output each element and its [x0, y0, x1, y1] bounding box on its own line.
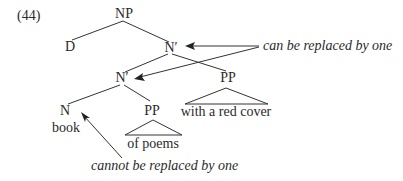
- node-n-bar-top: N′: [164, 41, 177, 55]
- example-number: (44): [17, 9, 40, 23]
- node-n-bar-low: N′: [115, 71, 128, 85]
- annotation-cannot-be-replaced: cannot be replaced by one: [91, 159, 238, 173]
- node-pp-right: PP: [220, 71, 236, 85]
- node-pp-low: PP: [144, 104, 160, 118]
- tree-lines: [0, 0, 403, 181]
- phrase-of-poems: of poems: [127, 137, 179, 151]
- word-book: book: [52, 121, 80, 135]
- node-np: NP: [115, 7, 133, 21]
- annotation-can-be-replaced: can be replaced by one: [263, 39, 392, 53]
- node-n: N: [60, 104, 70, 118]
- node-d: D: [65, 40, 75, 54]
- phrase-with-a-red-cover: with a red cover: [181, 105, 272, 119]
- arrowhead-icon: [134, 73, 145, 81]
